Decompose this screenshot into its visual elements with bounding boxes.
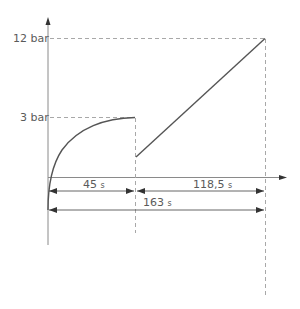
label-118-5s-unit: s — [228, 181, 232, 190]
label-163s-value: 163 — [143, 196, 164, 209]
x-axis-arrow-icon — [279, 175, 287, 180]
label-118-5s: 118,5 s — [193, 178, 232, 191]
label-163s: 163 s — [143, 196, 172, 209]
y-axis-arrow-icon — [46, 17, 51, 25]
label-163s-unit: s — [168, 199, 172, 208]
charging-curve — [48, 118, 135, 211]
label-3bar: 3 bar — [20, 111, 49, 124]
label-118-5s-value: 118,5 — [193, 178, 225, 191]
label-45s-value: 45 — [83, 178, 97, 191]
y-axis — [46, 17, 51, 245]
label-45s: 45 s — [83, 178, 105, 191]
label-12bar: 12 bar — [13, 32, 49, 45]
guide-lines — [50, 39, 266, 299]
pressure-curves — [48, 39, 265, 211]
linear-rise-line — [136, 39, 265, 158]
label-45s-unit: s — [101, 181, 105, 190]
pressure-time-diagram: 12 bar 3 bar 45 s 118,5 s 163 s — [0, 0, 300, 309]
